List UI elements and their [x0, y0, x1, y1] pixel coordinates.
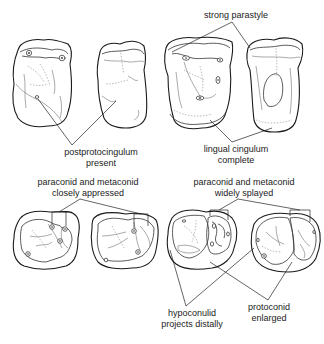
closely-appressed-label-line1: paraconid and metaconid — [28, 177, 148, 188]
widely-splayed-leader — [219, 199, 300, 210]
postprotocingulum-label-line1: postprotocingulum — [56, 147, 146, 158]
protoconid-label-line1: protoconid — [234, 302, 304, 313]
widely-splayed-label: paraconid and metaconid widely splayed — [184, 177, 304, 199]
hypoconulid-label-line2: projects distally — [150, 319, 234, 330]
hypoconulid-label-line1: hypoconulid — [150, 308, 234, 319]
lower-left-tooth-1 — [13, 211, 79, 269]
lingual-cingulum-label-line1: lingual cingulum — [196, 144, 276, 155]
lower-right-tooth-1 — [167, 210, 237, 269]
upper-left-tooth-2 — [97, 41, 147, 128]
postprotocingulum-label-line2: present — [56, 158, 146, 169]
hypoconulid-label: hypoconulid projects distally — [150, 308, 234, 330]
postprotocingulum-leader — [38, 99, 116, 145]
closely-appressed-leader — [59, 199, 141, 214]
diagram-drawing — [0, 0, 324, 344]
closely-appressed-label-line2: closely appressed — [28, 188, 148, 199]
postprotocingulum-label: postprotocingulum present — [56, 147, 146, 169]
widely-splayed-label-line1: paraconid and metaconid — [184, 177, 304, 188]
protoconid-label: protoconid enlarged — [234, 302, 304, 324]
upper-right-tooth-1 — [165, 37, 233, 129]
closely-appressed-label: paraconid and metaconid closely appresse… — [28, 177, 148, 199]
lower-right-tooth-2 — [251, 210, 320, 272]
strong-parastyle-label: strong parastyle — [196, 10, 276, 21]
tooth-morphology-diagram: postprotocingulum present strong parasty… — [0, 0, 324, 344]
upper-left-tooth-1 — [13, 39, 72, 126]
lower-left-tooth-2 — [91, 213, 158, 269]
strong-parastyle-label-text: strong parastyle — [196, 10, 276, 21]
protoconid-label-line2: enlarged — [234, 313, 304, 324]
protoconid-leader — [210, 262, 292, 300]
upper-right-tooth-2 — [247, 38, 303, 132]
widely-splayed-label-line2: widely splayed — [184, 188, 304, 199]
lingual-cingulum-label-line2: complete — [196, 155, 276, 166]
lingual-cingulum-label: lingual cingulum complete — [196, 144, 276, 166]
hypoconulid-leader — [170, 248, 254, 306]
